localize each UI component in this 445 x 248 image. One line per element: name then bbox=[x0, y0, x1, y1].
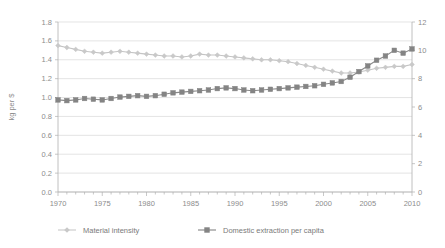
y-axis-left-tick-label: 0.0 bbox=[42, 188, 52, 197]
x-axis-tick-label: 1995 bbox=[271, 199, 288, 208]
data-point-marker bbox=[162, 54, 167, 59]
data-point-marker bbox=[91, 50, 96, 55]
chart-container: 0.00.20.40.60.81.01.21.41.61.80246810121… bbox=[0, 0, 445, 248]
data-point-marker bbox=[304, 84, 309, 89]
legend-label: Domestic extraction per capita bbox=[223, 226, 325, 235]
data-point-marker bbox=[127, 94, 132, 99]
x-axis-tick-label: 2005 bbox=[359, 199, 376, 208]
data-point-marker bbox=[82, 49, 87, 54]
data-point-marker bbox=[197, 88, 202, 93]
data-point-marker bbox=[144, 52, 149, 57]
data-point-marker bbox=[303, 63, 308, 68]
data-point-marker bbox=[410, 62, 415, 67]
data-point-marker bbox=[374, 66, 379, 71]
data-point-marker bbox=[357, 69, 362, 74]
data-point-marker bbox=[374, 58, 379, 63]
data-point-marker bbox=[348, 71, 353, 76]
legend-marker-diamond bbox=[64, 227, 70, 233]
data-point-marker bbox=[401, 64, 406, 69]
data-point-marker bbox=[401, 51, 406, 56]
data-point-marker bbox=[383, 54, 388, 59]
data-point-marker bbox=[295, 61, 300, 66]
data-point-marker bbox=[392, 64, 397, 69]
data-point-marker bbox=[56, 43, 61, 48]
x-axis-tick-label: 1990 bbox=[227, 199, 244, 208]
y-axis-right-tick-label: 2 bbox=[418, 159, 422, 168]
data-point-marker bbox=[118, 49, 123, 54]
data-point-marker bbox=[330, 81, 335, 86]
legend-item-2[interactable]: Domestic extraction per capita bbox=[198, 226, 325, 235]
y-axis-left-tick-label: 1.6 bbox=[42, 36, 52, 45]
data-point-marker bbox=[153, 53, 158, 58]
data-point-marker bbox=[365, 64, 370, 69]
data-point-marker bbox=[242, 88, 247, 93]
data-point-marker bbox=[268, 57, 273, 62]
y-axis-right-tick-label: 10 bbox=[418, 46, 426, 55]
data-point-marker bbox=[197, 52, 202, 57]
data-point-marker bbox=[135, 51, 140, 56]
line-chart: 0.00.20.40.60.81.01.21.41.61.80246810121… bbox=[0, 0, 445, 248]
y-axis-left-tick-label: 0.4 bbox=[42, 150, 52, 159]
legend-label: Material intensity bbox=[83, 226, 140, 235]
data-point-marker bbox=[312, 65, 317, 70]
data-point-marker bbox=[73, 98, 78, 103]
x-axis-tick-label: 1975 bbox=[94, 199, 111, 208]
y-axis-left-tick-label: 1.0 bbox=[42, 93, 52, 102]
data-point-marker bbox=[188, 89, 193, 94]
y-axis-right-tick-label: 12 bbox=[418, 18, 426, 27]
data-point-marker bbox=[312, 83, 317, 88]
data-point-marker bbox=[206, 88, 211, 93]
data-point-marker bbox=[135, 93, 140, 98]
data-point-marker bbox=[56, 98, 61, 103]
data-point-marker bbox=[118, 95, 123, 100]
legend-item-1[interactable]: Material intensity bbox=[58, 226, 140, 235]
data-point-marker bbox=[259, 88, 264, 93]
y-axis-left-tick-label: 0.6 bbox=[42, 131, 52, 140]
data-point-marker bbox=[162, 92, 167, 97]
data-point-marker bbox=[109, 96, 114, 101]
y-axis-left-tick-label: 0.8 bbox=[42, 112, 52, 121]
data-point-marker bbox=[383, 65, 388, 70]
data-point-marker bbox=[64, 45, 69, 50]
y-axis-title-left: kg per $ bbox=[7, 93, 16, 121]
data-point-marker bbox=[277, 58, 282, 63]
data-point-marker bbox=[259, 57, 264, 62]
data-point-marker bbox=[286, 86, 291, 91]
data-point-marker bbox=[126, 50, 131, 55]
y-axis-left-tick-label: 1.4 bbox=[42, 55, 52, 64]
y-axis-right-tick-label: 6 bbox=[418, 103, 422, 112]
x-axis-tick-label: 1970 bbox=[50, 199, 67, 208]
data-point-marker bbox=[215, 86, 220, 91]
data-point-marker bbox=[365, 68, 370, 73]
data-point-marker bbox=[277, 86, 282, 91]
y-axis-left-tick-label: 0.2 bbox=[42, 169, 52, 178]
y-axis-left-tick-label: 1.2 bbox=[42, 74, 52, 83]
data-point-marker bbox=[206, 53, 211, 58]
y-axis-right-tick-label: 8 bbox=[418, 74, 422, 83]
data-point-marker bbox=[109, 50, 114, 55]
data-point-marker bbox=[339, 79, 344, 84]
data-point-marker bbox=[224, 54, 229, 59]
data-point-marker bbox=[268, 87, 273, 92]
data-point-marker bbox=[250, 56, 255, 61]
x-axis-tick-label: 1985 bbox=[182, 199, 199, 208]
legend-marker-square bbox=[204, 227, 209, 232]
data-point-marker bbox=[233, 55, 238, 60]
x-axis-tick-label: 2010 bbox=[404, 199, 421, 208]
data-point-marker bbox=[410, 47, 415, 52]
data-point-marker bbox=[224, 86, 229, 91]
data-point-marker bbox=[171, 91, 176, 96]
data-point-marker bbox=[339, 71, 344, 76]
data-point-marker bbox=[171, 54, 176, 59]
data-point-marker bbox=[330, 69, 335, 74]
data-point-marker bbox=[250, 88, 255, 93]
x-axis-tick-label: 1980 bbox=[138, 199, 155, 208]
data-point-marker bbox=[180, 90, 185, 95]
data-point-marker bbox=[153, 93, 158, 98]
data-point-marker bbox=[91, 97, 96, 102]
data-point-marker bbox=[392, 48, 397, 53]
data-point-marker bbox=[65, 98, 70, 103]
data-point-marker bbox=[82, 96, 87, 101]
data-point-marker bbox=[215, 53, 220, 58]
data-point-marker bbox=[100, 51, 105, 56]
